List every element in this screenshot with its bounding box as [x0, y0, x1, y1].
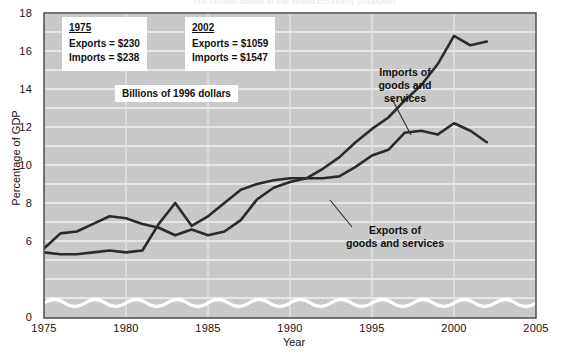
imports-callout-line-3: services: [350, 92, 460, 105]
x-tick-1995: 1995: [349, 322, 395, 334]
y-tick-16: 16: [8, 45, 32, 57]
imports-callout-line-1: Imports of: [350, 66, 460, 79]
x-tick-1990: 1990: [267, 322, 313, 334]
info-box-1975: 1975 Exports = $230 Imports = $238: [62, 17, 147, 71]
info-box-2002-imports: Imports = $1547: [192, 51, 268, 66]
x-tick-1975: 1975: [21, 322, 67, 334]
exports-callout-line-2: goods and services: [330, 237, 460, 250]
economics-line-chart-figure: The United States in the World Economy (…: [0, 0, 588, 356]
y-tick-6: 6: [8, 235, 32, 247]
info-box-2002-year: 2002: [192, 21, 268, 36]
imports-callout-line-2: goods and: [350, 79, 460, 92]
exports-callout-line-1: Exports of: [330, 224, 460, 237]
x-tick-2005: 2005: [513, 322, 559, 334]
x-tick-2000: 2000: [431, 322, 477, 334]
info-box-1975-year: 1975: [69, 21, 140, 36]
imports-callout: Imports of goods and services: [350, 66, 460, 105]
y-tick-18: 18: [8, 7, 32, 19]
info-box-2002-exports: Exports = $1059: [192, 37, 268, 52]
x-tick-1980: 1980: [103, 322, 149, 334]
info-box-1975-imports: Imports = $238: [69, 51, 140, 66]
y-axis-label: Percentage of GDP: [10, 110, 22, 206]
exports-callout: Exports of goods and services: [330, 224, 460, 250]
info-box-1975-exports: Exports = $230: [69, 37, 140, 52]
x-tick-1985: 1985: [185, 322, 231, 334]
x-axis-label: Year: [0, 336, 588, 348]
unit-note: Billions of 1996 dollars: [115, 85, 238, 102]
info-box-2002: 2002 Exports = $1059 Imports = $1547: [185, 17, 275, 71]
y-tick-14: 14: [8, 83, 32, 95]
